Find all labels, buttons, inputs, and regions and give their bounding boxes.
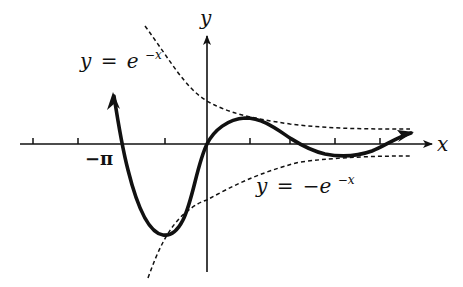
svg-text:y = e −x: y = e −x <box>79 48 162 73</box>
lower-envelope-label: y = −e −x <box>255 173 355 198</box>
x-axis-label: x <box>437 132 448 156</box>
upper-envelope-curve <box>145 26 410 129</box>
upper-envelope-label: y = e −x <box>79 48 162 73</box>
svg-text:y = −e −x: y = −e −x <box>255 173 355 198</box>
function-graph: y x −π y = e −x y = −e −x <box>0 0 463 287</box>
damped-oscillation-curve <box>114 96 411 235</box>
tick-label-minus-pi: −π <box>85 148 113 169</box>
curve-arrow-left-icon <box>107 92 120 110</box>
y-axis-label: y <box>199 6 212 30</box>
